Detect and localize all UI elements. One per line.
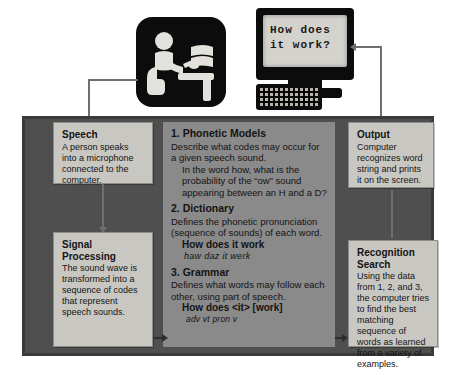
- speech-box: Speech A person speaks into a microphone…: [53, 122, 153, 184]
- speech-body: A person speaks into a microphone connec…: [62, 142, 145, 186]
- recognition-search-title: Recognition Search: [357, 247, 430, 270]
- recognition-search-body: Using the data from 1, 2, and 3, the com…: [357, 271, 430, 370]
- phonetic-models-body: Describe what codes may occur for a give…: [171, 141, 327, 164]
- speech-title: Speech: [62, 129, 145, 141]
- diagram-canvas: How does it work? 1. Phonetic Models Des…: [0, 0, 460, 391]
- connector-search-to-output: [391, 190, 393, 238]
- output-body: Computer recognizes word string and prin…: [357, 142, 426, 186]
- arrowhead-into-models: [162, 334, 168, 342]
- output-box: Output Computer recognizes word string a…: [348, 122, 434, 188]
- dictionary-example-italic: haw daz it werk: [171, 251, 327, 262]
- grammar-example-bold: How does <it> [work]: [171, 302, 327, 314]
- grammar-body: Defines what words may follow each other…: [171, 279, 327, 302]
- phonetic-models-title: 1. Phonetic Models: [171, 128, 327, 140]
- keyboard-icon: [256, 84, 322, 110]
- dictionary-title: 2. Dictionary: [171, 203, 327, 215]
- language-models-panel: 1. Phonetic Models Describe what codes m…: [163, 122, 335, 347]
- signal-processing-box: Signal Processing The sound wave is tran…: [53, 232, 153, 347]
- dictionary-example-bold: How does it work: [171, 239, 327, 251]
- signal-processing-title: Signal Processing: [62, 239, 145, 262]
- dictionary-body: Defines the phonetic pronunciation (sequ…: [171, 216, 327, 239]
- connector-output-horizontal: [356, 46, 382, 48]
- keyboard-keys: [260, 88, 318, 106]
- connector-output-vertical: [380, 46, 382, 120]
- grammar-example-parts-of-speech: adv vt pron v: [171, 314, 327, 325]
- arrowhead-to-monitor: [350, 43, 356, 51]
- grammar-title: 3. Grammar: [171, 267, 327, 279]
- connector-person-horizontal: [88, 79, 138, 81]
- phonetic-models-example: In the word how, what is the probability…: [171, 164, 327, 199]
- connector-speech-to-signal: [102, 184, 104, 228]
- connector-person-vertical: [88, 79, 90, 120]
- signal-processing-body: The sound wave is transformed into a seq…: [62, 263, 145, 318]
- monitor-screen-text: How does it work?: [263, 15, 347, 53]
- output-title: Output: [357, 129, 426, 141]
- person-at-desk-with-microphone-icon: [136, 17, 226, 107]
- recognition-search-box: Recognition Search Using the data from 1…: [348, 240, 438, 347]
- monitor-screen: How does it work?: [263, 15, 347, 67]
